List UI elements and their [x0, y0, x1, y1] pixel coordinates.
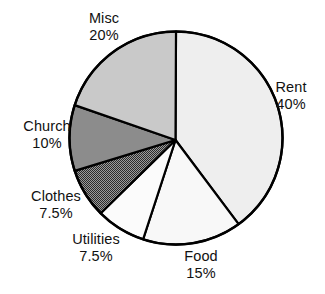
slice-label-food-value: 15%: [168, 265, 234, 282]
slice-label-clothes-value: 7.5%: [16, 205, 96, 222]
slice-label-clothes: Clothes 7.5%: [16, 188, 96, 222]
pie-chart: Misc 20% Rent 40% Church 10% Clothes 7.5…: [0, 0, 325, 294]
slice-label-rent: Rent 40%: [262, 79, 320, 113]
slice-label-utilities-value: 7.5%: [52, 248, 140, 265]
slice-label-misc: Misc 20%: [66, 10, 142, 44]
slice-label-church-name: Church: [6, 118, 88, 135]
slice-label-misc-name: Misc: [66, 10, 142, 27]
slice-label-misc-value: 20%: [66, 27, 142, 44]
slice-label-rent-value: 40%: [262, 96, 320, 113]
slice-label-church: Church 10%: [6, 118, 88, 152]
slice-label-church-value: 10%: [6, 135, 88, 152]
slice-label-utilities: Utilities 7.5%: [52, 231, 140, 265]
slice-label-clothes-name: Clothes: [16, 188, 96, 205]
slice-label-food: Food 15%: [168, 248, 234, 282]
slice-label-food-name: Food: [168, 248, 234, 265]
slice-label-utilities-name: Utilities: [52, 231, 140, 248]
slice-label-rent-name: Rent: [262, 79, 320, 96]
